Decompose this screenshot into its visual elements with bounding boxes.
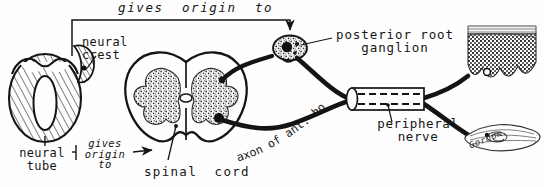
label-gives-origin-to-top: gives origin to bbox=[118, 1, 273, 14]
ganglion-neuron bbox=[282, 42, 292, 52]
neural-tube-structure bbox=[9, 54, 81, 142]
label-peripheral-nerve: peripheral nerve bbox=[367, 117, 469, 143]
neural-crest-cell bbox=[81, 65, 86, 70]
label-spinal-cord: spinal cord bbox=[144, 165, 250, 178]
posterior-root-ganglion-structure bbox=[273, 36, 332, 63]
skin-structure bbox=[468, 26, 536, 77]
label-posterior-root-ganglion: posterior root ganglion bbox=[336, 28, 454, 54]
label-neural-tube: neural tube bbox=[6, 147, 78, 172]
label-neural-crest: neural crest bbox=[82, 36, 128, 61]
figure-canvas: axon of ant. horn cell gives origin to n… bbox=[0, 0, 544, 187]
central-canal bbox=[180, 94, 192, 102]
sensory-nerve-ending bbox=[484, 69, 491, 76]
spinal-cord-structure bbox=[125, 52, 247, 160]
label-gives-origin-to-bottom: gives origin to bbox=[78, 138, 132, 170]
